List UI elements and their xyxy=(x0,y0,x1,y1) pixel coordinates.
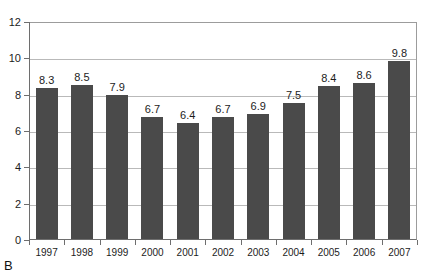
x-tick xyxy=(417,240,418,245)
y-axis-label: 8 xyxy=(0,90,21,101)
bar xyxy=(36,88,58,239)
bar-value-label: 8.4 xyxy=(309,73,349,84)
x-axis-label: 2001 xyxy=(168,247,208,258)
x-tick xyxy=(276,240,277,245)
x-axis-label: 1998 xyxy=(62,247,102,258)
bar-value-label: 9.8 xyxy=(379,48,419,59)
bar xyxy=(388,61,410,239)
x-tick xyxy=(29,240,30,245)
bar xyxy=(353,83,375,239)
bar xyxy=(247,114,269,239)
y-axis-label: 12 xyxy=(0,17,21,28)
x-axis-label: 2004 xyxy=(274,247,314,258)
bar xyxy=(283,103,305,239)
x-axis-label: 2007 xyxy=(379,247,419,258)
bar-value-label: 8.5 xyxy=(62,72,102,83)
bar-value-label: 6.7 xyxy=(132,104,172,115)
x-axis-label: 1999 xyxy=(97,247,137,258)
x-tick xyxy=(241,240,242,245)
bar-chart-figure: 024681012 8.38.57.96.76.46.76.97.58.48.6… xyxy=(0,0,431,277)
y-axis-label: 0 xyxy=(0,235,21,246)
bar xyxy=(212,117,234,239)
bar xyxy=(141,117,163,239)
bar-value-label: 6.4 xyxy=(168,110,208,121)
bar-value-label: 7.5 xyxy=(274,90,314,101)
bar-value-label: 8.3 xyxy=(27,75,67,86)
bar xyxy=(318,86,340,239)
y-axis-label: 6 xyxy=(0,126,21,137)
x-axis-label: 2005 xyxy=(309,247,349,258)
x-tick xyxy=(100,240,101,245)
x-axis-label: 2002 xyxy=(203,247,243,258)
x-tick xyxy=(382,240,383,245)
bar xyxy=(177,123,199,239)
x-tick xyxy=(205,240,206,245)
panel-letter: B xyxy=(4,259,13,273)
x-tick xyxy=(135,240,136,245)
bar-value-label: 7.9 xyxy=(97,82,137,93)
x-axis-label: 2003 xyxy=(238,247,278,258)
bar-value-label: 8.6 xyxy=(344,70,384,81)
x-axis-label: 2006 xyxy=(344,247,384,258)
bar-value-label: 6.7 xyxy=(203,104,243,115)
x-axis-label: 1997 xyxy=(27,247,67,258)
y-axis-label: 2 xyxy=(0,199,21,210)
y-axis-label: 10 xyxy=(0,53,21,64)
y-axis-label: 4 xyxy=(0,162,21,173)
bar-value-label: 6.9 xyxy=(238,101,278,112)
x-axis-label: 2000 xyxy=(132,247,172,258)
bar xyxy=(106,95,128,239)
x-tick xyxy=(64,240,65,245)
x-tick xyxy=(346,240,347,245)
x-tick xyxy=(170,240,171,245)
x-tick xyxy=(311,240,312,245)
bars-group xyxy=(29,22,417,240)
bar xyxy=(71,85,93,239)
